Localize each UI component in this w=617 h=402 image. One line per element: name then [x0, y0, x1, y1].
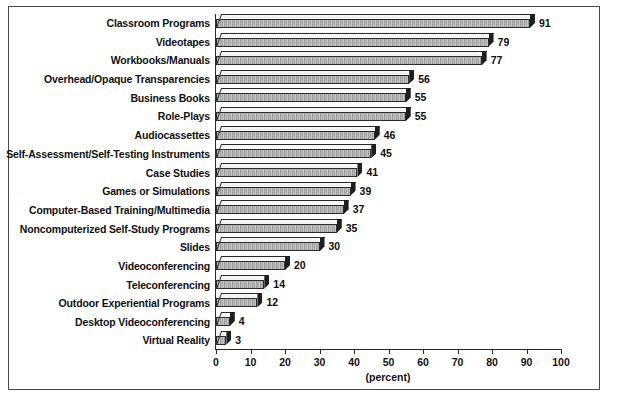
bar-front-face: [216, 205, 344, 214]
bar-front-face: [216, 261, 285, 270]
bar-front-face: [216, 224, 337, 233]
bar-value-label: 77: [491, 54, 503, 66]
bar-end-cap: [257, 293, 262, 307]
category-label: Case Studies: [0, 167, 210, 179]
bar: [216, 331, 231, 345]
category-label: Computer-Based Training/Multimedia: [0, 204, 210, 216]
category-label: Overhead/Opaque Transparencies: [0, 73, 210, 85]
bar: [216, 275, 269, 289]
x-tick: [216, 349, 217, 354]
bar-front-face: [216, 38, 489, 47]
x-tick-label: 40: [348, 356, 360, 368]
bar-value-label: 46: [384, 129, 396, 141]
x-tick: [320, 349, 321, 354]
category-label: Workbooks/Manuals: [0, 54, 210, 66]
x-tick: [423, 349, 424, 354]
category-label: Self-Assessment/Self-Testing Instruments: [0, 148, 210, 160]
bar-end-cap: [344, 200, 349, 214]
x-tick-label: 10: [245, 356, 257, 368]
category-label: Slides: [0, 241, 210, 253]
bar-end-cap: [320, 237, 325, 251]
plot-area: Classroom Programs Videotapes Workbooks/…: [0, 0, 617, 402]
bar-front-face: [216, 149, 371, 158]
bar: [216, 107, 411, 121]
bar: [216, 14, 535, 28]
bar: [216, 256, 290, 270]
bar-value-label: 37: [353, 203, 365, 215]
x-tick-label: 0: [213, 356, 219, 368]
bar-value-label: 35: [346, 222, 358, 234]
bar-value-label: 45: [380, 147, 392, 159]
bar: [216, 51, 487, 65]
bar-top-edge: [221, 88, 411, 93]
bar-end-cap: [406, 88, 411, 102]
bar-top-edge: [221, 293, 262, 298]
bar-value-label: 3: [235, 334, 241, 346]
bar-top-edge: [221, 163, 362, 168]
bar-value-label: 55: [415, 110, 427, 122]
bar: [216, 200, 349, 214]
bar-value-label: 14: [273, 278, 285, 290]
x-tick: [458, 349, 459, 354]
bar: [216, 88, 411, 102]
x-tick-label: 60: [417, 356, 429, 368]
bar-front-face: [216, 93, 406, 102]
bar: [216, 293, 262, 307]
category-label: Virtual Reality: [0, 334, 210, 346]
bar-top-edge: [221, 275, 269, 280]
bar-value-label: 55: [415, 91, 427, 103]
x-tick: [527, 349, 528, 354]
bar-end-cap: [530, 14, 535, 28]
x-tick-label: 100: [552, 356, 570, 368]
x-tick: [389, 349, 390, 354]
bar-top-edge: [221, 33, 494, 38]
bar-end-cap: [357, 163, 362, 177]
bar-end-cap: [489, 33, 494, 47]
bar-end-cap: [264, 275, 269, 289]
bar-front-face: [216, 168, 357, 177]
category-label: Outdoor Experiential Programs: [0, 297, 210, 309]
category-label: Role-Plays: [0, 110, 210, 122]
bar-end-cap: [482, 51, 487, 65]
bar-front-face: [216, 56, 482, 65]
bar-end-cap: [285, 256, 290, 270]
bar: [216, 33, 494, 47]
bar-value-label: 91: [539, 17, 551, 29]
bar-value-label: 4: [239, 315, 245, 327]
x-tick-label: 80: [486, 356, 498, 368]
x-tick-label: 30: [314, 356, 326, 368]
bar: [216, 312, 235, 326]
x-tick-label: 20: [279, 356, 291, 368]
x-tick-label: 90: [521, 356, 533, 368]
x-tick: [251, 349, 252, 354]
bar-top-edge: [221, 219, 342, 224]
bar-value-label: 56: [418, 73, 430, 85]
bar-top-edge: [221, 256, 290, 261]
category-label: Classroom Programs: [0, 17, 210, 29]
category-label: Videotapes: [0, 36, 210, 48]
category-label: Videoconferencing: [0, 260, 210, 272]
bar-end-cap: [226, 331, 231, 345]
bar: [216, 126, 380, 140]
bar-front-face: [216, 187, 351, 196]
bar-end-cap: [375, 126, 380, 140]
bar-top-edge: [221, 70, 414, 75]
bar-top-edge: [221, 182, 356, 187]
bar-top-edge: [221, 237, 325, 242]
bar-front-face: [216, 131, 375, 140]
bar: [216, 70, 414, 84]
bar-end-cap: [409, 70, 414, 84]
bar-end-cap: [230, 312, 235, 326]
category-label: Teleconferencing: [0, 279, 210, 291]
bar: [216, 163, 362, 177]
category-label: Noncomputerized Self-Study Programs: [0, 223, 210, 235]
bar-front-face: [216, 19, 530, 28]
category-label: Business Books: [0, 92, 210, 104]
x-tick-label: 50: [383, 356, 395, 368]
bar-top-edge: [221, 200, 349, 205]
bar-end-cap: [371, 144, 376, 158]
bar-front-face: [216, 75, 409, 84]
category-label: Audiocassettes: [0, 129, 210, 141]
bar: [216, 144, 376, 158]
y-axis-line: [215, 14, 216, 349]
